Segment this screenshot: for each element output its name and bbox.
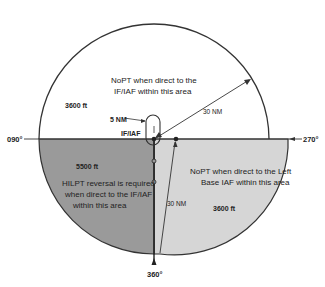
hilpt-note: within this area (72, 201, 127, 210)
bearing-360-label: 360° (147, 270, 163, 279)
stepdown-fix-icon (152, 159, 156, 163)
left-base-note: NoPT when direct to the Left (190, 167, 292, 176)
straight-in-note: IF/IAF within this area (114, 87, 192, 96)
straight-in-altitude: 3600 ft (65, 102, 88, 109)
left-base-iaf-fix-icon (174, 137, 179, 142)
bearing-270-label: 270° (303, 135, 319, 144)
left-base-note: Base IAF within this area (201, 178, 290, 187)
if-iaf-label: IF/IAF (121, 130, 141, 137)
arrowhead-icon (289, 137, 295, 141)
hilpt-note: when direct to the IF/IAF (64, 190, 152, 199)
course-arrow-icon (152, 258, 157, 265)
holding-distance-label: 5 NM (110, 116, 127, 123)
left-base-altitude: 3600 ft (213, 205, 236, 212)
hilpt-note: HILPT reversal is required (62, 179, 155, 188)
straight-in-note: NoPT when direct to the (111, 76, 197, 85)
arrowhead-icon (141, 119, 146, 123)
straight-in-radius-label: 30 NM (203, 108, 222, 115)
bearing-090-label: 090° (7, 135, 23, 144)
taa-diagram: 090° 270° 360° NoPT when direct to the I… (0, 0, 325, 287)
hilpt-altitude: 5500 ft (76, 163, 99, 170)
left-base-radius-label: 30 NM (167, 200, 186, 207)
left-base-area (154, 139, 288, 255)
